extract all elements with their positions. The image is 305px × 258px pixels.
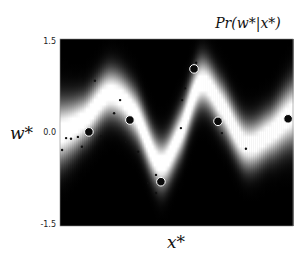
x-axis-label: x* xyxy=(167,232,186,252)
sample-point xyxy=(155,174,157,176)
sample-point xyxy=(61,149,63,151)
sample-point xyxy=(94,80,96,82)
sample-point xyxy=(245,148,247,150)
heatmap xyxy=(60,39,294,226)
sample-point xyxy=(155,192,157,194)
training-point xyxy=(85,128,94,137)
y-axis-label: w* xyxy=(10,123,34,143)
chart-title: Pr(w*|x*) xyxy=(214,15,281,32)
training-point xyxy=(190,65,199,74)
sample-point xyxy=(70,138,72,140)
training-point xyxy=(126,116,135,125)
sample-point xyxy=(221,132,223,134)
y-tick-label: 1.5 xyxy=(43,37,56,46)
sample-point xyxy=(125,141,127,143)
training-point xyxy=(214,117,223,126)
sample-point xyxy=(137,151,139,153)
training-point xyxy=(157,177,166,186)
sample-point xyxy=(113,112,115,114)
sample-point xyxy=(65,137,67,139)
sample-point xyxy=(184,87,186,89)
training-point xyxy=(284,115,293,124)
sample-point xyxy=(180,127,182,129)
sample-point xyxy=(195,62,197,64)
sample-point xyxy=(77,136,79,138)
sample-point xyxy=(181,99,183,101)
sample-point xyxy=(100,135,102,137)
sample-point xyxy=(119,99,121,101)
chart: Pr(w*|x*) 1.5 0.0 -1.5 w* x* xyxy=(0,0,305,258)
sample-point xyxy=(147,182,149,184)
y-tick-label: -1.5 xyxy=(40,220,56,229)
y-tick-label: 0.0 xyxy=(43,128,56,137)
sample-point xyxy=(81,146,83,148)
